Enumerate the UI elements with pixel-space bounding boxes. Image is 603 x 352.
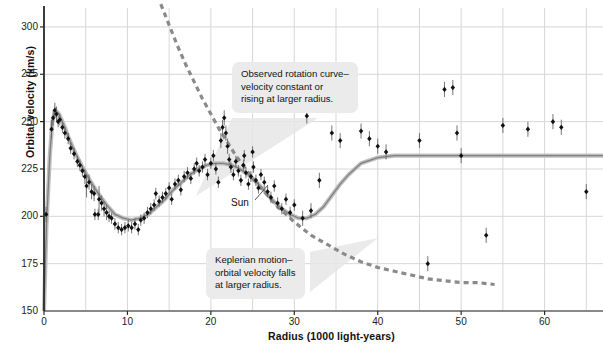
annotation-line: velocity constant or <box>241 81 349 94</box>
x-tick-label: 30 <box>279 316 309 327</box>
keplerian-callout: Keplerian motion–orbital velocity fallsa… <box>206 248 305 299</box>
rotation-curve-figure: Orbital velocity (km/s) Radius (1000 lig… <box>0 0 603 352</box>
x-tick-label: 40 <box>363 316 393 327</box>
y-tick-label: 250 <box>8 116 38 127</box>
y-tick-label: 175 <box>8 258 38 269</box>
y-tick-label: 300 <box>8 21 38 32</box>
x-tick-label: 50 <box>446 316 476 327</box>
observed-rotation-callout: Observed rotation curve–velocity constan… <box>232 62 358 113</box>
annotation-line: orbital velocity falls <box>215 267 296 280</box>
x-tick-label: 20 <box>196 316 226 327</box>
plot-canvas <box>0 0 603 352</box>
annotation-line: Keplerian motion– <box>215 254 296 267</box>
y-tick-label: 200 <box>8 210 38 221</box>
x-tick-label: 0 <box>29 316 59 327</box>
annotation-line: Observed rotation curve– <box>241 68 349 81</box>
x-tick-label: 60 <box>530 316 560 327</box>
y-tick-label: 225 <box>8 163 38 174</box>
sun-marker-label: Sun <box>231 197 249 208</box>
annotation-line: at larger radius. <box>215 279 296 292</box>
annotation-line: Sun <box>231 197 249 208</box>
y-tick-label: 275 <box>8 68 38 79</box>
x-tick-label: 10 <box>112 316 142 327</box>
y-tick-label: 150 <box>8 305 38 316</box>
annotation-line: rising at larger radius. <box>241 93 349 106</box>
